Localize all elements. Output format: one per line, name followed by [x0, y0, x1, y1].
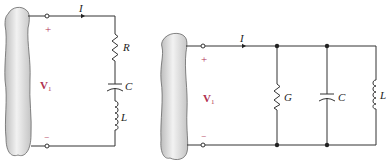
resistor-label: R — [123, 42, 130, 53]
inductor-l — [373, 80, 376, 109]
voltage-label: V1 — [203, 93, 214, 106]
resistor-r — [112, 34, 118, 61]
node-dot — [275, 44, 279, 48]
terminal-plus — [201, 44, 205, 48]
plus-label: + — [201, 54, 207, 65]
node-dot — [325, 44, 329, 48]
resistor-g — [274, 84, 280, 110]
terminal-minus — [201, 143, 205, 147]
conductance-label: G — [284, 92, 292, 103]
node-dot — [325, 143, 329, 147]
terminal-minus — [45, 144, 49, 148]
current-arrow-icon — [242, 44, 246, 48]
inductor-l — [115, 101, 118, 130]
inductor-label: L — [121, 112, 127, 123]
current-arrow-icon — [81, 14, 85, 18]
terminal-plus — [45, 14, 49, 18]
capacitor-label: C — [125, 81, 132, 92]
current-label: I — [240, 33, 244, 44]
minus-label: − — [201, 132, 206, 141]
source-blob-right — [161, 33, 188, 159]
plus-label: + — [45, 24, 51, 35]
capacitor-label: C — [338, 92, 345, 103]
source-blob-left — [5, 7, 31, 155]
current-label: I — [79, 3, 83, 14]
circuit-diagrams — [0, 0, 386, 163]
voltage-label: V1 — [40, 80, 51, 93]
minus-label: − — [44, 133, 49, 142]
inductor-label: L — [380, 90, 386, 101]
node-dot — [275, 143, 279, 147]
series-circuit — [5, 7, 123, 155]
